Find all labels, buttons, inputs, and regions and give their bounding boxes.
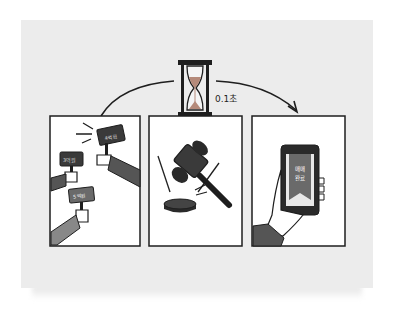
timer-label: 0.1초 [215,94,237,104]
phone-text-1: 매매 [295,165,305,173]
phone-text-2: 완료 [295,174,305,181]
illustration: 0.1초 4억원 3억원 5억원 [0,0,394,311]
phone-icon: 매매 완료 [281,145,319,215]
panel-phone: 매매 완료 [252,116,345,246]
sound-block-icon [164,199,196,213]
hourglass-icon [178,60,212,118]
sign-2-text: 3억원 [63,157,76,164]
panel-bidding: 4억원 3억원 5억원 [50,116,140,246]
arc-left [101,81,174,116]
panel-gavel [149,116,242,246]
